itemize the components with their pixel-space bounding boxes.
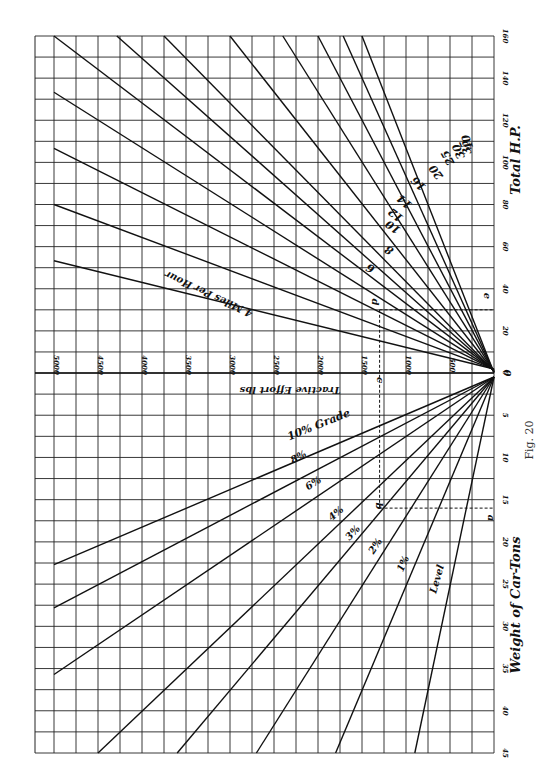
tons-tick-label: 5: [501, 413, 510, 418]
hp-tick-label: 80: [501, 200, 510, 210]
tractive-tick-label: 2500: [272, 354, 281, 375]
point-label-e: e: [482, 293, 493, 299]
point-label-b: b: [374, 503, 385, 510]
tractive-effort-axis-title: Tractive Effort lbs: [239, 385, 340, 396]
hp-tick-label: 20: [501, 325, 510, 336]
grade-label: 1%: [394, 553, 411, 573]
grade-label: Level: [427, 563, 446, 595]
grade-label: 8%: [289, 448, 309, 466]
tractive-tick-label: 4500: [96, 355, 105, 375]
tons-tick-label: 45: [501, 748, 510, 758]
figure-caption: Fig. 20: [523, 420, 536, 459]
tractive-tick-label: 1000: [404, 355, 413, 375]
tractive-tick-label: 5000: [52, 355, 61, 375]
tractive-tick-label: 2000: [316, 354, 325, 375]
speed-line: [283, 36, 494, 372]
grade-label: 6%: [303, 474, 323, 492]
tractive-tick-label: 4000: [140, 355, 149, 375]
total-hp-axis-title: Total H.P.: [508, 125, 523, 195]
point-label-d: d: [370, 299, 381, 306]
tractive-tick-label: 500: [448, 358, 457, 373]
grade-label: 10% Grade: [285, 406, 352, 443]
hp-tick-label: 40: [501, 284, 510, 294]
tons-tick-label: 40: [501, 706, 510, 716]
tractive-tick-label: 3500: [184, 355, 193, 375]
tons-tick-label: 15: [501, 495, 510, 505]
grade-label: 3%: [343, 522, 363, 542]
speed-label: 16: [408, 173, 428, 193]
tractive-tick-label: 3000: [228, 355, 237, 375]
tractive-tick-label: 1500: [360, 355, 369, 375]
hp-tick-label: 60: [501, 242, 510, 252]
nomogram-chart: 0204060801001201401605101520253035404505…: [0, 0, 558, 780]
point-label-a: a: [486, 515, 497, 521]
hp-tick-label: 140: [501, 71, 510, 86]
speed-line: [164, 36, 494, 371]
origin-label: 0: [502, 370, 513, 377]
speed-line: [117, 36, 494, 371]
grade-line: [415, 377, 494, 753]
hp-tick-label: 160: [501, 29, 510, 44]
point-label-c: c: [375, 377, 386, 383]
weight-axis-title: Weight of Car-Tons: [508, 536, 523, 674]
grade-line: [177, 377, 494, 753]
tons-tick-label: 10: [501, 453, 510, 463]
grade-line: [336, 377, 494, 753]
